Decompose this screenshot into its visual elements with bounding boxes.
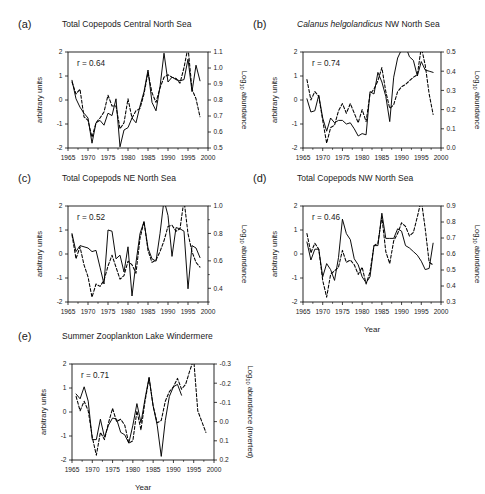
y-left-tick-label-b-0: -2 — [292, 144, 298, 151]
y-right-tick-label-b-3: 0.3 — [447, 87, 456, 94]
y-right-tick-label-a-3: 0.8 — [214, 96, 223, 103]
y-left-tick-label-a-1: -1 — [57, 120, 63, 127]
x-tick-label-d-1: 1970 — [315, 308, 330, 315]
y-left-tick-label-b-3: 1 — [294, 72, 298, 79]
x-axis-title-d: Year — [364, 325, 381, 334]
y-left-tick-label-a-3: 1 — [59, 72, 63, 79]
plot-area-b: 19651970197519801985199019952000-2-10120… — [253, 34, 485, 192]
x-tick-label-b-7: 2000 — [434, 154, 449, 161]
x-tick-label-c-0: 1965 — [61, 308, 76, 315]
y-right-tick-label-c-3: 1.0 — [214, 202, 223, 209]
x-tick-label-c-3: 1980 — [121, 308, 136, 315]
x-axis-title-e: Year — [135, 483, 152, 492]
y-left-tick-label-d-0: -2 — [292, 298, 298, 305]
y-right-tick-label-e-3: 0.0 — [220, 418, 229, 425]
x-tick-label-c-1: 1970 — [81, 308, 96, 315]
x-tick-label-d-7: 2000 — [434, 308, 449, 315]
y-left-axis-title-d: arbitrary units — [270, 231, 279, 277]
y-left-tick-label-c-1: -1 — [57, 274, 63, 281]
y-left-tick-label-b-1: -1 — [292, 120, 298, 127]
x-tick-label-a-0: 1965 — [61, 154, 76, 161]
y-left-tick-label-b-4: 2 — [294, 48, 298, 55]
panel-header-c: (c)Total Copepods NE North Sea — [18, 172, 266, 188]
y-right-tick-label-a-4: 0.9 — [214, 80, 223, 87]
x-tick-label-b-6: 1995 — [414, 154, 429, 161]
y-left-tick-label-d-3: 1 — [294, 226, 298, 233]
plot-wrapper-a: 19651970197519801985199019952000-2-10120… — [18, 34, 266, 192]
y-right-tick-label-b-5: 0.5 — [447, 48, 456, 55]
chart-panel-b: (b)Calanus helgolandicus NW North Sea196… — [253, 18, 485, 192]
y-left-tick-label-d-2: 0 — [294, 250, 298, 257]
y-left-axis-title-b: arbitrary units — [270, 77, 279, 123]
y-right-tick-label-b-0: 0.0 — [447, 144, 456, 151]
y-right-tick-label-d-2: 0.5 — [447, 266, 456, 273]
y-left-tick-label-e-0: -2 — [61, 456, 67, 463]
y-right-axis-title-a: Log10 abundance — [239, 71, 249, 130]
x-tick-label-e-6: 1995 — [186, 466, 201, 473]
y-right-tick-label-e-1: -0.2 — [220, 380, 232, 387]
panel-title-e: Summer Zooplankton Lake Windermere — [62, 331, 213, 341]
y-left-tick-label-e-3: 1 — [63, 384, 67, 391]
y-right-tick-label-e-5: 0.2 — [220, 456, 229, 463]
x-tick-label-b-0: 1965 — [296, 154, 311, 161]
panel-header-e: (e)Summer Zooplankton Lake Windermere — [18, 330, 272, 346]
y-right-tick-label-d-5: 0.8 — [447, 218, 456, 225]
y-left-tick-label-e-2: 0 — [63, 408, 67, 415]
x-tick-label-e-7: 2000 — [207, 466, 222, 473]
x-tick-label-d-5: 1990 — [394, 308, 409, 315]
panel-title-d: Total Copepods NW North Sea — [297, 173, 413, 183]
y-right-tick-label-a-0: 0.5 — [214, 144, 223, 151]
x-tick-label-d-6: 1995 — [414, 308, 429, 315]
plot-wrapper-e: 19651970197519801985199019952000-2-1012-… — [18, 346, 272, 494]
y-right-tick-label-b-2: 0.2 — [447, 106, 456, 113]
y-right-tick-label-e-4: 0.1 — [220, 437, 229, 444]
x-tick-label-e-2: 1975 — [105, 466, 120, 473]
x-tick-label-d-3: 1980 — [355, 308, 370, 315]
plot-area-d: 19651970197519801985199019952000-2-10120… — [253, 188, 485, 366]
y-right-tick-label-e-2: -0.1 — [220, 399, 232, 406]
panel-letter-c: (c) — [18, 172, 31, 184]
y-right-tick-label-d-0: 0.3 — [447, 298, 456, 305]
chart-panel-d: (d)Total Copepods NW North Sea1965197019… — [253, 172, 485, 366]
correlation-annotation-c: r = 0.52 — [77, 213, 105, 222]
x-tick-label-e-1: 1970 — [85, 466, 100, 473]
x-tick-label-b-1: 1970 — [315, 154, 330, 161]
y-right-tick-label-d-4: 0.7 — [447, 234, 456, 241]
y-right-tick-label-b-4: 0.4 — [447, 68, 456, 75]
y-right-axis-title-d: Log10 abundance — [472, 225, 482, 284]
y-left-tick-label-a-0: -2 — [57, 144, 63, 151]
y-right-tick-label-d-6: 0.9 — [447, 202, 456, 209]
plot-wrapper-d: 19651970197519801985199019952000-2-10120… — [253, 188, 485, 366]
x-tick-label-b-4: 1985 — [375, 154, 390, 161]
correlation-annotation-a: r = 0.64 — [77, 59, 105, 68]
x-tick-label-e-4: 1985 — [146, 466, 161, 473]
y-left-tick-label-b-2: 0 — [294, 96, 298, 103]
y-left-tick-label-a-4: 2 — [59, 48, 63, 55]
x-tick-label-a-4: 1985 — [141, 154, 156, 161]
y-left-tick-label-c-4: 2 — [59, 202, 63, 209]
y-left-tick-label-a-2: 0 — [59, 96, 63, 103]
chart-panel-e: (e)Summer Zooplankton Lake Windermere196… — [18, 330, 272, 494]
panel-letter-d: (d) — [253, 172, 266, 184]
x-tick-label-d-0: 1965 — [296, 308, 311, 315]
y-right-axis-title-b: Log10 abundance — [472, 71, 482, 130]
panel-header-d: (d)Total Copepods NW North Sea — [253, 172, 485, 188]
x-tick-label-b-2: 1975 — [335, 154, 350, 161]
x-tick-label-d-4: 1985 — [375, 308, 390, 315]
y-right-tick-label-c-0: 0.4 — [214, 285, 223, 292]
y-left-tick-label-e-1: -1 — [61, 432, 67, 439]
x-tick-label-e-0: 1965 — [65, 466, 80, 473]
plot-wrapper-c: 19651970197519801985199019952000-2-10120… — [18, 188, 266, 346]
panel-title-c: Total Copepods NE North Sea — [62, 173, 176, 183]
x-tick-label-e-3: 1980 — [126, 466, 141, 473]
y-left-tick-label-c-0: -2 — [57, 298, 63, 305]
x-tick-label-a-3: 1980 — [121, 154, 136, 161]
panel-letter-a: (a) — [18, 18, 31, 30]
y-left-tick-label-c-3: 1 — [59, 226, 63, 233]
x-tick-label-d-2: 1975 — [335, 308, 350, 315]
plot-area-e: 19651970197519801985199019952000-2-1012-… — [18, 346, 272, 494]
species-name-b: Calanus helgolandicus — [297, 19, 383, 29]
panel-title-b: Calanus helgolandicus NW North Sea — [297, 19, 440, 29]
plot-area-a: 19651970197519801985199019952000-2-10120… — [18, 34, 266, 192]
y-left-tick-label-c-2: 0 — [59, 250, 63, 257]
